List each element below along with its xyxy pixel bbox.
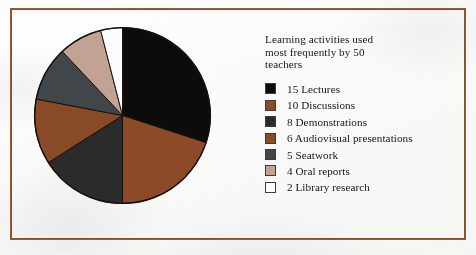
legend-list: 15 Lectures10 Discussions8 Demonstration… xyxy=(265,81,463,196)
legend-swatch-icon xyxy=(265,165,276,176)
legend-item-label: 2 Library research xyxy=(287,181,370,193)
legend-swatch-icon xyxy=(265,149,276,160)
legend-swatch-icon xyxy=(265,133,276,144)
figure-page: 15 Lectures10 Discussions8 Demonstration… xyxy=(0,0,476,255)
legend-item-label: 15 Lectures xyxy=(287,83,340,95)
legend-item-label: 5 Seatwork xyxy=(287,149,338,161)
legend-title: Learning activities used most frequently… xyxy=(265,33,463,71)
legend-item-demonstrations: 8 Demonstrations xyxy=(265,114,463,130)
legend-swatch-icon xyxy=(265,100,276,111)
legend-swatch-icon xyxy=(265,182,276,193)
legend-item-seatwork: 5 Seatwork xyxy=(265,146,463,162)
legend-item-lectures: 15 Lectures xyxy=(265,81,463,97)
legend-item-label: 6 Audiovisual presentations xyxy=(287,132,413,144)
legend-item-oral-reports: 4 Oral reports xyxy=(265,163,463,179)
legend-item-label: 10 Discussions xyxy=(287,99,355,111)
pie-chart: 15 Lectures10 Discussions8 Demonstration… xyxy=(33,26,212,205)
legend-item-library-research: 2 Library research xyxy=(265,179,463,195)
legend-item-audiovisual-presentations: 6 Audiovisual presentations xyxy=(265,130,463,146)
pie-slice-group: 15 Lectures10 Discussions8 Demonstration… xyxy=(35,28,211,204)
pie-chart-svg: 15 Lectures10 Discussions8 Demonstration… xyxy=(33,26,212,205)
legend-swatch-icon xyxy=(265,83,276,94)
legend: Learning activities used most frequently… xyxy=(265,33,463,196)
legend-item-label: 8 Demonstrations xyxy=(287,116,367,128)
legend-swatch-icon xyxy=(265,116,276,127)
legend-item-discussions: 10 Discussions xyxy=(265,97,463,113)
legend-item-label: 4 Oral reports xyxy=(287,165,350,177)
